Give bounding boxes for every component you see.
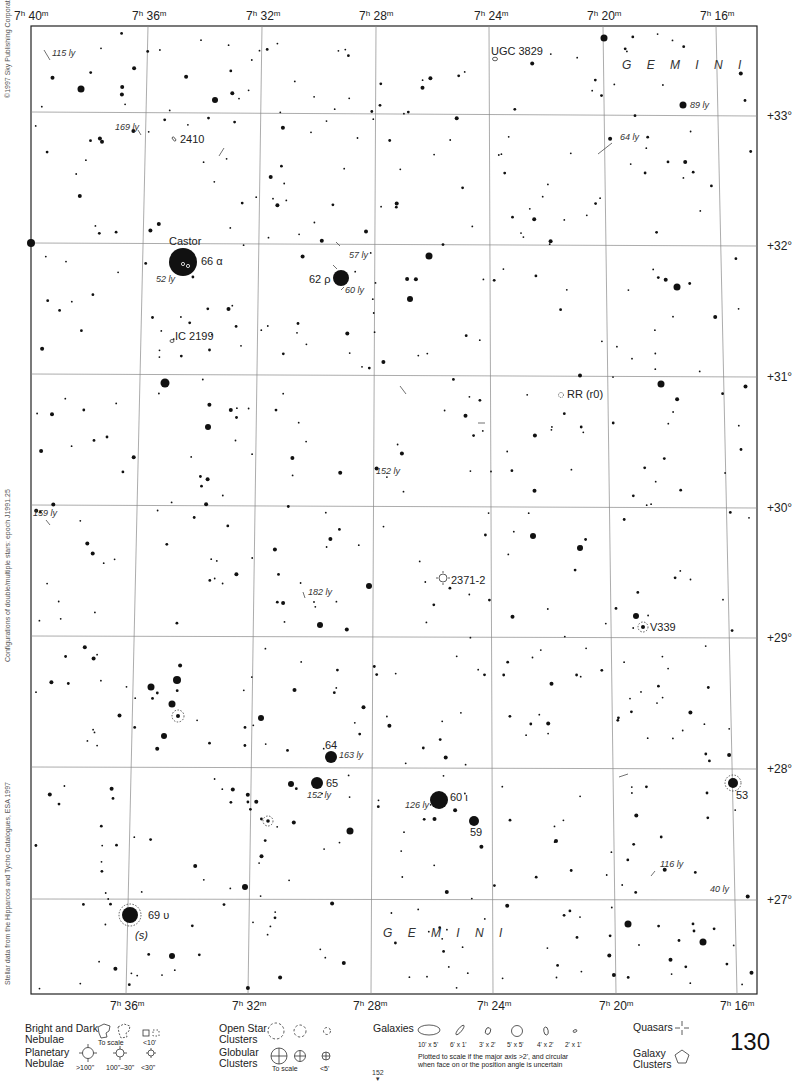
legend-planetary-large: >100" xyxy=(76,1062,94,1073)
faint-star xyxy=(278,976,282,980)
faint-star xyxy=(721,392,724,395)
galaxy-icon xyxy=(455,1024,465,1036)
faint-star xyxy=(441,720,443,722)
faint-star xyxy=(672,316,674,318)
faint-star xyxy=(699,371,701,373)
faint-star xyxy=(342,961,346,965)
faint-star xyxy=(631,36,634,39)
faint-star xyxy=(426,353,428,355)
faint-star xyxy=(550,682,554,686)
faint-star xyxy=(612,973,616,977)
small-nebula-icon xyxy=(143,1030,149,1036)
faint-star xyxy=(305,441,307,443)
faint-star xyxy=(629,698,631,700)
faint-star xyxy=(386,716,388,718)
faint-star xyxy=(735,257,738,260)
faint-star xyxy=(128,983,131,986)
faint-star xyxy=(477,669,479,671)
faint-star xyxy=(275,409,278,412)
faint-star xyxy=(334,108,336,110)
bright-star xyxy=(407,296,413,302)
faint-star xyxy=(740,448,743,451)
faint-star xyxy=(49,680,53,684)
faint-star xyxy=(248,408,250,410)
distance-label: 152 ly xyxy=(376,466,401,476)
faint-star xyxy=(234,572,238,576)
faint-star xyxy=(233,121,236,124)
faint-star xyxy=(453,808,457,812)
dec-label: +32° xyxy=(767,239,792,253)
faint-star xyxy=(632,494,635,497)
faint-star xyxy=(208,349,211,352)
faint-star xyxy=(283,183,285,185)
faint-star xyxy=(335,687,337,689)
faint-star xyxy=(704,753,707,756)
bright-star xyxy=(78,86,85,93)
faint-star xyxy=(551,429,553,431)
star-chart: Castor66 α62 ρ646560 ι595369 υ(s)V339RR … xyxy=(0,0,802,1087)
faint-star xyxy=(188,321,191,324)
adjacent-page-link[interactable]: 152 ▼ xyxy=(372,1069,384,1083)
faint-star xyxy=(395,673,397,675)
faint-star xyxy=(532,217,536,221)
faint-star xyxy=(282,393,284,395)
faint-star xyxy=(488,512,490,514)
faint-star xyxy=(260,895,262,897)
faint-star xyxy=(36,413,38,415)
faint-star xyxy=(78,194,82,198)
faint-star xyxy=(64,398,66,400)
faint-star xyxy=(400,850,402,852)
faint-star xyxy=(599,197,601,199)
faint-star xyxy=(606,874,608,876)
faint-star xyxy=(547,733,549,735)
faint-star xyxy=(616,346,618,348)
ra-gridline xyxy=(371,26,376,994)
faint-star xyxy=(266,48,269,51)
faint-star xyxy=(713,927,716,930)
faint-star xyxy=(395,206,398,209)
faint-star xyxy=(655,481,657,483)
faint-star xyxy=(208,742,211,745)
faint-star xyxy=(379,82,382,85)
object-label-galaxy: UGC 3829 xyxy=(491,45,543,57)
faint-star xyxy=(484,918,486,920)
faint-star xyxy=(214,578,216,580)
faint-star xyxy=(563,819,565,821)
bright-star xyxy=(173,676,181,684)
constellation-label: G E M I N I xyxy=(383,926,508,940)
ra-gridline xyxy=(126,26,148,994)
faint-star xyxy=(60,618,62,620)
faint-star xyxy=(336,601,338,603)
legend-planetary-small: <30" xyxy=(141,1062,155,1073)
object-label-galaxy: IC 2199 xyxy=(175,330,214,342)
faint-star xyxy=(443,775,445,777)
faint-star xyxy=(293,688,297,692)
faint-star xyxy=(159,356,161,358)
faint-star xyxy=(206,307,209,310)
faint-star xyxy=(405,277,409,281)
faint-star xyxy=(254,800,258,804)
faint-star xyxy=(731,629,734,632)
faint-star xyxy=(507,554,509,556)
faint-star xyxy=(323,848,325,850)
faint-star xyxy=(540,649,542,651)
legend-nebulae-scale: To scale xyxy=(98,1037,124,1048)
ra-label-bottom: 7h 24m xyxy=(477,999,512,1013)
faint-star xyxy=(400,452,404,456)
dec-axis-labels: +33°+32°+31°+30°+29°+28°+27° xyxy=(767,109,792,907)
faint-star xyxy=(324,957,326,959)
faint-star xyxy=(704,723,706,725)
bright-star xyxy=(169,953,175,959)
faint-star xyxy=(692,923,695,926)
galaxy-icon xyxy=(543,1027,549,1036)
faint-star xyxy=(126,686,128,688)
faint-star xyxy=(113,967,117,971)
faint-star xyxy=(469,396,471,398)
star xyxy=(266,819,270,823)
faint-star xyxy=(672,738,674,740)
ra-label-top: 7h 20m xyxy=(587,9,622,23)
bright-star xyxy=(601,35,608,42)
faint-star xyxy=(260,329,262,331)
faint-star xyxy=(131,972,133,974)
ra-label-top: 7h 40m xyxy=(14,9,49,23)
